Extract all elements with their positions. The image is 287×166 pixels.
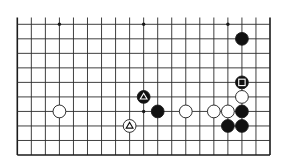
black-stone-icon — [236, 120, 249, 133]
white-stone — [179, 105, 192, 118]
white-stone-icon — [179, 105, 192, 118]
black-stone-icon — [236, 105, 249, 118]
board-grid — [17, 18, 270, 156]
white-stone-icon — [221, 105, 234, 118]
white-stone-icon — [53, 105, 66, 118]
white-stone — [236, 91, 249, 104]
white-stone-icon — [236, 91, 249, 104]
black-stone — [236, 76, 249, 89]
black-stone-icon — [236, 76, 249, 89]
star-point — [142, 110, 145, 113]
black-stone — [236, 105, 249, 118]
black-stone — [221, 120, 234, 133]
black-stone — [236, 120, 249, 133]
white-stone — [123, 120, 136, 133]
black-stone — [137, 91, 150, 104]
black-stone — [236, 32, 249, 45]
star-point — [142, 23, 145, 26]
star-point — [58, 23, 61, 26]
white-stone — [53, 105, 66, 118]
black-stone-icon — [221, 120, 234, 133]
black-stone-icon — [236, 32, 249, 45]
star-point — [226, 23, 229, 26]
white-stone — [207, 105, 220, 118]
go-board-diagram — [0, 0, 287, 166]
white-stone-icon — [207, 105, 220, 118]
black-stone — [151, 105, 164, 118]
black-stone-icon — [151, 105, 164, 118]
white-stone — [221, 105, 234, 118]
